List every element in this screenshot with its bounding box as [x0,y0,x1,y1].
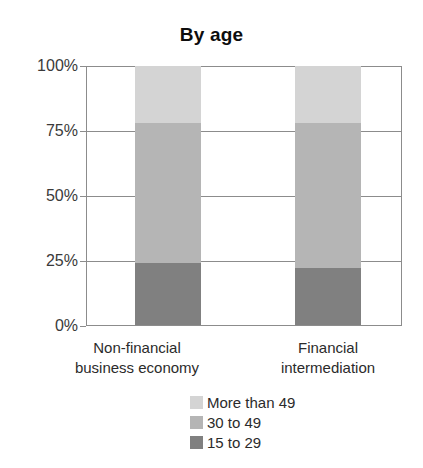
x-axis-label-financial-intermediation: Financial intermediation [243,338,413,378]
y-tick-label-100: 100% [4,57,78,75]
bar-segment-more-than-49[interactable] [135,66,201,123]
y-tick-label-75: 75% [4,122,78,140]
chart-title: By age [0,24,423,46]
legend-label-30-to-49: 30 to 49 [207,414,261,431]
x-axis-label-line2: business economy [52,358,222,378]
legend-swatch-icon-15-to-29 [190,436,203,449]
plot-area [86,66,402,326]
bar-non-financial-business-economy[interactable] [135,66,201,325]
y-axis: 0% 25% 50% 75% 100% [0,66,78,326]
legend-swatch-icon-more-than-49 [190,396,203,409]
legend: More than 49 30 to 49 15 to 29 [0,392,423,452]
y-tick-mark-0 [80,326,86,327]
x-axis-label-line1: Financial [243,338,413,358]
legend-swatch-icon-30-to-49 [190,416,203,429]
y-tick-label-0: 0% [4,317,78,335]
legend-item-15-to-29[interactable]: 15 to 29 [0,432,423,452]
bar-segment-15-to-29[interactable] [295,268,361,325]
x-axis-label-line2: intermediation [243,358,413,378]
bar-segment-30-to-49[interactable] [295,123,361,268]
bar-segment-30-to-49[interactable] [135,123,201,263]
chart-figure: By age 0% 25% 50% 75% 100% Non-financial [0,0,423,468]
legend-label-more-than-49: More than 49 [207,394,295,411]
x-axis-label-line1: Non-financial [52,338,222,358]
legend-item-more-than-49[interactable]: More than 49 [0,392,423,412]
legend-label-15-to-29: 15 to 29 [207,434,261,451]
bar-segment-15-to-29[interactable] [135,263,201,325]
x-axis-label-non-financial-business-economy: Non-financial business economy [52,338,222,378]
bar-financial-intermediation[interactable] [295,66,361,325]
y-tick-label-50: 50% [4,187,78,205]
legend-item-30-to-49[interactable]: 30 to 49 [0,412,423,432]
bar-segment-more-than-49[interactable] [295,66,361,123]
y-tick-label-25: 25% [4,252,78,270]
